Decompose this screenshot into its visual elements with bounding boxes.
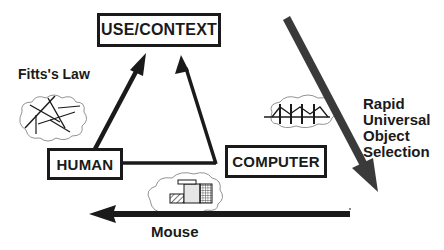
use-context-box: USE/CONTEXT (97, 13, 221, 47)
mouse-label: Mouse (151, 223, 199, 240)
scribble-lines-cloud-icon (20, 95, 87, 141)
human-label: HUMAN (57, 156, 114, 173)
human-to-context-arrow (95, 53, 146, 149)
use-context-label: USE/CONTEXT (101, 21, 217, 39)
ruos-line-1: Rapid (363, 96, 431, 112)
ruos-line-4: Selection (363, 144, 431, 160)
computer-box: COMPUTER (225, 145, 327, 178)
ruos-line-2: Universal (363, 112, 431, 128)
ruos-line-3: Object (363, 128, 431, 144)
screen-layout-cloud-icon (148, 173, 223, 215)
computer-label: COMPUTER (232, 153, 319, 170)
human-box: HUMAN (47, 148, 123, 180)
rapid-universal-object-selection-label: Rapid Universal Object Selection (363, 96, 431, 160)
fitts-law-label: Fitts's Law (18, 66, 90, 82)
mouse-horizontal-arrow (89, 205, 350, 223)
